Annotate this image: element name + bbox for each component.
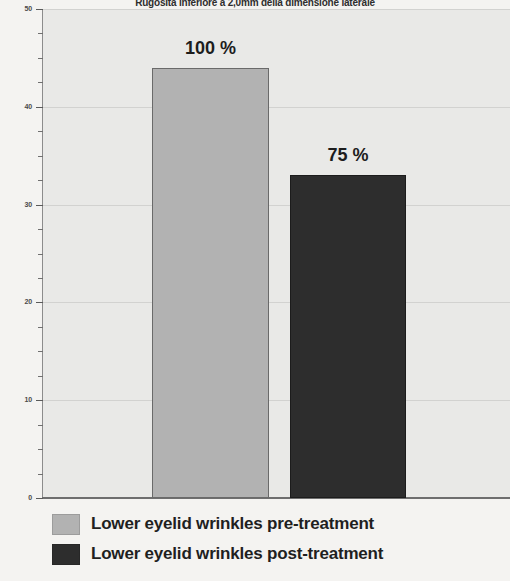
y-axis-tick-minor (38, 156, 43, 157)
legend-swatch-post-icon (52, 544, 80, 565)
gridline (43, 205, 510, 206)
y-axis-tick-minor (38, 376, 43, 377)
chart-page: Rugosità inferiore a 2,0mm della dimensi… (0, 0, 510, 581)
y-axis-tick-minor (38, 327, 43, 328)
y-axis-tick-minor (38, 33, 43, 34)
y-axis-tick-major (36, 302, 43, 303)
y-axis-label: 50 (0, 5, 32, 12)
y-axis-tick-minor (38, 82, 43, 83)
y-axis-tick-major (36, 107, 43, 108)
y-axis-tick-minor (38, 229, 43, 230)
chart-title: Rugosità inferiore a 2,0mm della dimensi… (0, 0, 510, 9)
y-axis-tick-minor (38, 351, 43, 352)
y-axis-label: 20 (0, 298, 32, 305)
chart-legend: Lower eyelid wrinkles pre-treatment Lowe… (52, 509, 492, 569)
y-axis-tick-minor (38, 474, 43, 475)
gridline (43, 9, 510, 10)
plot-area (42, 9, 510, 498)
legend-swatch-pre-icon (52, 514, 80, 535)
y-axis-tick-minor (38, 58, 43, 59)
y-axis-tick-major (36, 9, 43, 10)
y-axis-tick-minor (38, 254, 43, 255)
gridline (43, 302, 510, 303)
x-axis-baseline (42, 497, 510, 499)
legend-label-pre: Lower eyelid wrinkles pre-treatment (91, 514, 374, 534)
y-axis-tick-minor (38, 425, 43, 426)
y-axis-tick-major (36, 205, 43, 206)
y-axis-label: 0 (0, 494, 32, 501)
plot-wrapper: 01020304050 100 %75 % (0, 9, 510, 505)
y-axis-label: 40 (0, 103, 32, 110)
y-axis-tick-minor (38, 278, 43, 279)
y-axis-tick-major (36, 498, 43, 499)
y-axis-tick-minor (38, 180, 43, 181)
y-axis-label: 30 (0, 201, 32, 208)
y-axis-label: 10 (0, 396, 32, 403)
y-axis-tick-minor (38, 449, 43, 450)
legend-item-pre: Lower eyelid wrinkles pre-treatment (52, 509, 492, 539)
bar-pre (152, 68, 269, 498)
y-axis-tick-minor (38, 131, 43, 132)
gridline (43, 400, 510, 401)
legend-item-post: Lower eyelid wrinkles post-treatment (52, 539, 492, 569)
bar-value-label: 75 % (290, 145, 406, 166)
y-axis-tick-major (36, 400, 43, 401)
bar-value-label: 100 % (152, 38, 269, 59)
legend-label-post: Lower eyelid wrinkles post-treatment (91, 544, 383, 564)
bar-post (290, 175, 406, 498)
gridline (43, 107, 510, 108)
